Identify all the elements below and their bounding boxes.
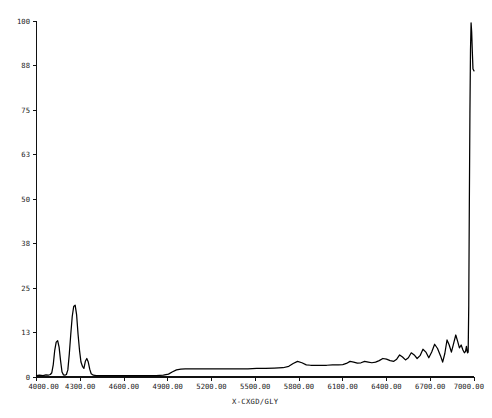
- x-tick-label: 6400.00: [371, 382, 401, 391]
- y-tick-label: 13: [21, 328, 30, 337]
- y-tick-label: 63: [21, 150, 30, 159]
- spectrum-line-chart: 013253850637588100 4000.004300.004600.00…: [0, 0, 492, 418]
- x-tick-label: 7000.00: [454, 382, 484, 391]
- chart-container: 013253850637588100 4000.004300.004600.00…: [0, 0, 492, 418]
- x-tick-label: 6700.00: [415, 382, 445, 391]
- y-tick-label: 50: [21, 195, 30, 204]
- y-tick-label: 75: [21, 106, 30, 115]
- x-axis-title: X-CXGD/GLY: [232, 397, 279, 406]
- x-tick-label: 6100.00: [328, 382, 358, 391]
- x-tick-label: 5800.00: [284, 382, 314, 391]
- x-tick-label: 4000.00: [29, 382, 59, 391]
- y-tick-label: 100: [17, 17, 30, 26]
- chart-background: [0, 0, 492, 418]
- y-tick-label: 88: [21, 61, 30, 70]
- x-tick-label: 4600.00: [109, 382, 139, 391]
- x-tick-label: 4900.00: [153, 382, 183, 391]
- x-tick-label: 5500.00: [240, 382, 270, 391]
- y-tick-label: 38: [21, 239, 30, 248]
- y-tick-label: 0: [26, 373, 30, 382]
- x-tick-label: 4300.00: [65, 382, 95, 391]
- y-tick-label: 25: [21, 284, 30, 293]
- x-tick-label: 5200.00: [196, 382, 226, 391]
